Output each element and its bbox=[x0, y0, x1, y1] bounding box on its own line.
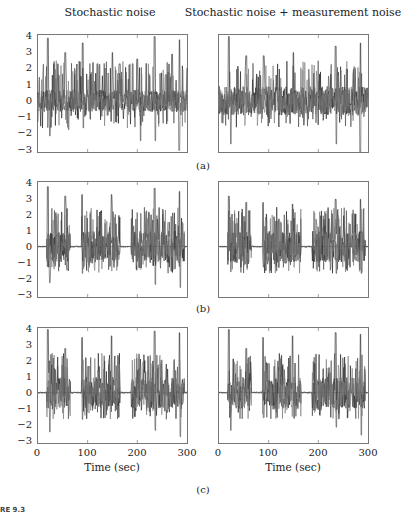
x-tick-left-0: 0 bbox=[34, 448, 40, 458]
y-tick-label: −1 bbox=[12, 404, 32, 414]
plot-c-right bbox=[218, 327, 369, 444]
x-tick-right-0: 0 bbox=[215, 448, 221, 458]
plot-b-left bbox=[37, 181, 188, 298]
y-tick-label: −2 bbox=[12, 420, 32, 430]
x-axis-label-right: Time (sec) bbox=[265, 461, 321, 473]
panel-label-b: (b) bbox=[196, 303, 210, 314]
y-tick-label: −1 bbox=[12, 258, 32, 268]
y-tick-label: 4 bbox=[12, 324, 32, 334]
y-tick-label: 3 bbox=[12, 340, 32, 350]
y-tick-label: −1 bbox=[12, 112, 32, 122]
y-tick-label: 2 bbox=[12, 210, 32, 220]
x-tick-right-200: 200 bbox=[308, 448, 327, 458]
y-tick-label: 0 bbox=[12, 242, 32, 252]
left-column-title: Stochastic noise bbox=[64, 6, 155, 19]
y-tick-label: 1 bbox=[12, 226, 32, 236]
y-tick-label: 1 bbox=[12, 372, 32, 382]
y-tick-label: 0 bbox=[12, 96, 32, 106]
y-tick-label: 2 bbox=[12, 356, 32, 366]
y-tick-label: 2 bbox=[12, 63, 32, 73]
x-tick-right-100: 100 bbox=[258, 448, 277, 458]
panel-label-a: (a) bbox=[196, 160, 210, 171]
right-column-title: Stochastic noise + measurement noise bbox=[185, 6, 401, 19]
x-tick-left-200: 200 bbox=[127, 448, 146, 458]
y-tick-label: 3 bbox=[12, 194, 32, 204]
y-tick-label: −3 bbox=[12, 290, 32, 300]
plot-c-left bbox=[37, 327, 188, 444]
y-tick-label: −3 bbox=[12, 145, 32, 155]
signal-trace bbox=[38, 61, 187, 128]
x-tick-right-300: 300 bbox=[358, 448, 377, 458]
plot-a-right bbox=[218, 34, 369, 153]
y-tick-label: 0 bbox=[12, 388, 32, 398]
plot-a-left bbox=[37, 34, 188, 153]
y-tick-label: 4 bbox=[12, 31, 32, 41]
x-tick-left-100: 100 bbox=[77, 448, 96, 458]
y-tick-label: −2 bbox=[12, 128, 32, 138]
panel-label-c: (c) bbox=[196, 484, 209, 495]
y-tick-label: −3 bbox=[12, 436, 32, 446]
x-axis-label-left: Time (sec) bbox=[84, 461, 140, 473]
y-tick-label: −2 bbox=[12, 274, 32, 284]
y-tick-label: 4 bbox=[12, 178, 32, 188]
plot-b-right bbox=[218, 181, 369, 298]
y-tick-label: 3 bbox=[12, 47, 32, 57]
x-tick-left-300: 300 bbox=[177, 448, 196, 458]
y-tick-label: 1 bbox=[12, 80, 32, 90]
figure-caption-fragment: RE 9.3 bbox=[0, 506, 25, 514]
